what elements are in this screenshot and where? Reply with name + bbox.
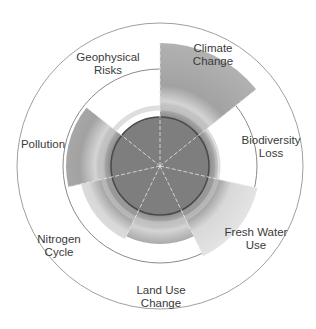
label-line-2: Change xyxy=(136,297,185,310)
label-line-1: Geophysical xyxy=(76,51,139,64)
label-line-2: Use xyxy=(225,239,288,252)
label-geophysical-risks: GeophysicalRisks xyxy=(76,51,139,77)
label-land-use-change: Land UseChange xyxy=(136,284,185,310)
label-fresh-water-use: Fresh WaterUse xyxy=(225,226,288,252)
label-climate-change: ClimateChange xyxy=(193,42,233,68)
label-line-1: Pollution xyxy=(21,138,65,151)
label-line-2: Risks xyxy=(76,64,139,77)
label-line-1: Biodiversity xyxy=(242,134,301,147)
label-line-1: Nitrogen xyxy=(37,233,80,246)
label-pollution: Pollution xyxy=(21,138,65,151)
planetary-boundaries-diagram: ClimateChangeBiodiversityLossFresh Water… xyxy=(0,0,316,329)
label-line-1: Land Use xyxy=(136,284,185,297)
label-line-2: Change xyxy=(193,55,233,68)
label-line-2: Cycle xyxy=(37,246,80,259)
label-line-1: Climate xyxy=(193,42,233,55)
label-nitrogen-cycle: NitrogenCycle xyxy=(37,233,80,259)
polar-chart xyxy=(0,0,316,329)
label-line-2: Loss xyxy=(242,147,301,160)
label-biodiversity-loss: BiodiversityLoss xyxy=(242,134,301,160)
label-line-1: Fresh Water xyxy=(225,226,288,239)
